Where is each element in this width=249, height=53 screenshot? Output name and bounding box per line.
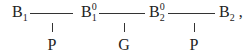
node-b2-base: B [219, 3, 230, 20]
edge-b1-b1-0 [30, 13, 73, 14]
node-b2-sub: 2 [230, 12, 235, 23]
edge-b1-0-b2-0-tick [124, 23, 125, 32]
edge-label-p-2: P [190, 37, 199, 53]
edge-label-p-1: P [48, 37, 57, 53]
node-b2-0-sub: 2 [160, 13, 165, 23]
node-b1-0-base: B [81, 3, 92, 20]
node-b1: B1 [12, 4, 28, 20]
edge-b2-0-b2 [168, 13, 215, 14]
edge-b1-0-b2-0 [99, 13, 145, 14]
edge-b2-0-b2-tick [194, 23, 195, 32]
edge-label-g: G [118, 37, 130, 53]
node-b1-base: B [12, 3, 23, 20]
node-b2-0-sup: 0 [160, 2, 165, 12]
node-b2-0-base: B [149, 3, 160, 20]
node-b2: B2 , [219, 4, 243, 20]
node-b1-0-sup: 0 [92, 2, 97, 12]
node-b1-sub: 1 [23, 12, 28, 23]
edge-b1-b1-0-tick [52, 23, 53, 32]
node-b2-0: B02 [149, 4, 167, 20]
node-b1-0: B01 [81, 4, 99, 20]
node-b1-0-sub: 1 [92, 13, 97, 23]
node-b2-trailing-comma: , [239, 3, 243, 20]
